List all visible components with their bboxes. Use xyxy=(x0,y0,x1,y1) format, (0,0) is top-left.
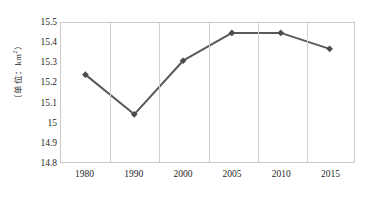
y-axis-tick-label: 15 xyxy=(24,118,57,128)
y-axis-title: （单位：km2） xyxy=(11,27,23,117)
data-point-marker xyxy=(277,30,284,37)
y-axis-tick-label: 15.4 xyxy=(24,37,57,47)
x-axis-tick-label: 2005 xyxy=(208,167,257,187)
x-axis-tick-label: 1980 xyxy=(60,167,109,187)
vertical-gridline xyxy=(209,23,210,162)
y-axis-tick-label: 15.3 xyxy=(24,57,57,67)
vertical-gridline xyxy=(110,23,111,162)
y-axis-tick-label: 15.1 xyxy=(24,98,57,108)
y-axis-title-prefix: （单位：km xyxy=(13,54,23,103)
plot-area xyxy=(60,22,355,163)
y-axis-tick-label: 15.2 xyxy=(24,77,57,87)
y-axis-tick-label: 14.8 xyxy=(24,158,57,168)
x-axis-tick-label: 2000 xyxy=(158,167,207,187)
x-axis-tick-label: 2015 xyxy=(306,167,355,187)
data-point-marker xyxy=(326,45,333,52)
x-axis-tick-label: 2010 xyxy=(257,167,306,187)
line-chart: （单位：km2） 15.515.415.315.215.11514.914.8 … xyxy=(0,0,373,200)
y-axis-tick-label: 15.5 xyxy=(24,17,57,27)
y-axis-title-suffix: ） xyxy=(13,41,23,50)
series-line xyxy=(61,23,354,162)
vertical-gridline xyxy=(159,23,160,162)
y-axis-title-superscript: 2 xyxy=(12,50,18,53)
x-axis-tick-labels: 198019902000200520102015 xyxy=(60,167,355,187)
data-line xyxy=(85,33,329,114)
vertical-gridline xyxy=(258,23,259,162)
x-axis-tick-label: 1990 xyxy=(109,167,158,187)
y-axis-tick-label: 14.9 xyxy=(24,138,57,148)
vertical-gridline xyxy=(307,23,308,162)
y-axis-tick-labels: 15.515.415.315.215.11514.914.8 xyxy=(24,18,57,164)
